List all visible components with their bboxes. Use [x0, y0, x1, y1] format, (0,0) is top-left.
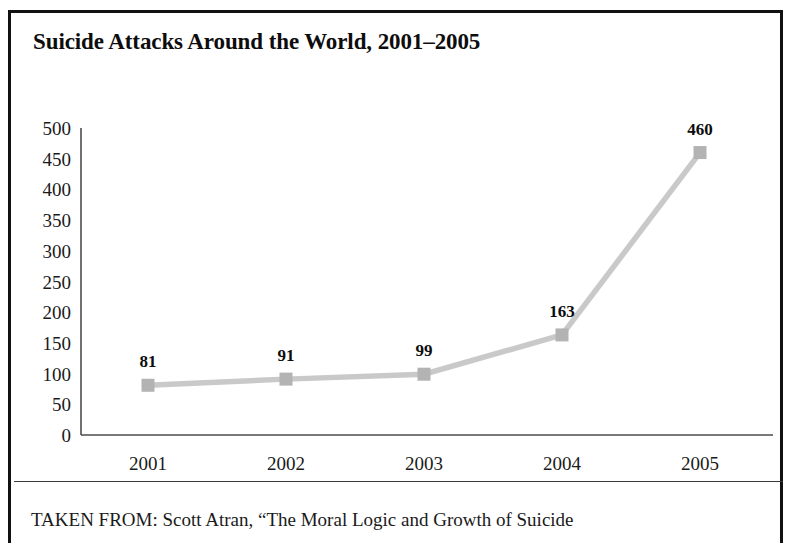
y-axis-tick-label: 350: [19, 211, 71, 230]
chart-axes: [81, 128, 773, 435]
y-axis-tick-label: 450: [19, 150, 71, 169]
x-axis-tick-label: 2003: [379, 454, 469, 473]
x-axis-tick-label: 2004: [517, 454, 607, 473]
data-point-label: 460: [665, 121, 735, 138]
y-axis-tick-label: 100: [19, 365, 71, 384]
figure-frame: Suicide Attacks Around the World, 2001–2…: [8, 10, 783, 543]
chart-plot-area: 050100150200250300350400450500 200120022…: [11, 13, 780, 540]
series-marker: [556, 328, 569, 341]
y-axis-tick-label: 250: [19, 273, 71, 292]
series-marker: [280, 373, 293, 386]
x-axis-tick-label: 2002: [241, 454, 331, 473]
y-axis-tick-label: 0: [19, 426, 71, 445]
x-axis-tick-label: 2005: [655, 454, 745, 473]
y-axis-tick-label: 150: [19, 334, 71, 353]
series-marker: [694, 146, 707, 159]
y-axis-tick-label: 500: [19, 119, 71, 138]
y-axis-tick-label: 300: [19, 242, 71, 261]
y-axis-tick-label: 200: [19, 303, 71, 322]
x-axis-tick-label: 2001: [103, 454, 193, 473]
data-point-label: 91: [251, 347, 321, 364]
data-point-label: 99: [389, 342, 459, 359]
data-point-label: 81: [113, 353, 183, 370]
series-marker: [418, 368, 431, 381]
y-axis-tick-label: 400: [19, 180, 71, 199]
caption-divider: [14, 481, 783, 482]
source-note: TAKEN FROM: Scott Atran, “The Moral Logi…: [31, 508, 574, 532]
y-axis-tick-label: 50: [19, 395, 71, 414]
series-marker: [142, 379, 155, 392]
data-point-label: 163: [527, 303, 597, 320]
